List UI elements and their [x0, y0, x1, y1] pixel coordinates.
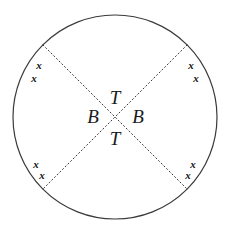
figure-canvas	[0, 0, 231, 236]
geometry-figure: T B B T x x x x x x x x	[0, 0, 231, 236]
